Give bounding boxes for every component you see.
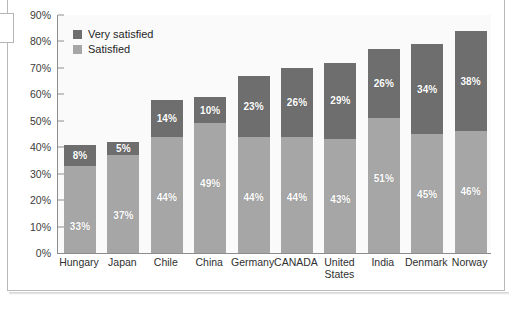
y-axis-tick-label: 20% <box>30 195 51 206</box>
legend-color-swatch <box>73 30 82 39</box>
y-axis-tick-label: 90% <box>30 10 51 21</box>
bar-segment-value-label: 26% <box>374 79 394 89</box>
bar-segment-value-label: 43% <box>330 195 350 205</box>
bar-segment-value-label: 44% <box>157 193 177 203</box>
bar-segment-value-label: 23% <box>243 102 263 112</box>
bar-column[interactable]: 38%46% <box>455 31 487 253</box>
bar-segment-very-satisfied[interactable]: 38% <box>455 31 487 131</box>
bar-segment-very-satisfied[interactable]: 34% <box>411 44 443 134</box>
bar-column[interactable]: 10%49% <box>194 97 226 253</box>
y-axis-tick-label: 70% <box>30 63 51 74</box>
y-axis-tick-mark <box>58 94 64 95</box>
y-axis-tick-label: 10% <box>30 221 51 232</box>
bar-column[interactable]: 34%45% <box>411 44 443 253</box>
legend-color-swatch <box>73 45 82 54</box>
bar-segment-value-label: 38% <box>460 77 480 87</box>
bar-segment-value-label: 10% <box>200 106 220 116</box>
bar-column[interactable]: 8%33% <box>64 145 96 253</box>
bar-column[interactable]: 26%51% <box>368 49 400 253</box>
bar-segment-satisfied[interactable]: 37% <box>107 155 139 253</box>
y-axis-tick-label: 80% <box>30 36 51 47</box>
bar-segment-value-label: 49% <box>200 179 220 189</box>
bar-segment-satisfied[interactable]: 33% <box>64 166 96 253</box>
bar-segment-very-satisfied[interactable]: 26% <box>368 49 400 118</box>
bar-column[interactable]: 29%43% <box>324 63 356 253</box>
stacked-bar-chart: 90%80%70%60%50%40%30%20%10%0% 8%33%5%37%… <box>0 0 517 317</box>
bar-segment-satisfied[interactable]: 49% <box>194 123 226 253</box>
y-axis-tick-label: 50% <box>30 116 51 127</box>
y-axis-tick-label: 30% <box>30 168 51 179</box>
y-axis-tick-mark <box>58 15 64 16</box>
bar-segment-value-label: 45% <box>417 190 437 200</box>
bar-segment-very-satisfied[interactable]: 29% <box>324 63 356 140</box>
bar-segment-satisfied[interactable]: 51% <box>368 118 400 253</box>
bar-column[interactable]: 14%44% <box>151 100 183 253</box>
bar-segment-value-label: 34% <box>417 85 437 95</box>
bar-segment-satisfied[interactable]: 44% <box>238 137 270 253</box>
bar-segment-value-label: 33% <box>70 222 90 232</box>
y-axis-tick-label: 40% <box>30 142 51 153</box>
bar-segment-satisfied[interactable]: 46% <box>455 131 487 253</box>
bar-segment-value-label: 29% <box>330 96 350 106</box>
bar-segment-value-label: 44% <box>243 193 263 203</box>
bar-segment-value-label: 8% <box>73 151 88 161</box>
legend-item[interactable]: Very satisfied <box>73 27 153 42</box>
bar-segment-value-label: 14% <box>157 114 177 124</box>
bar-segment-satisfied[interactable]: 45% <box>411 134 443 253</box>
bar-segment-value-label: 46% <box>460 187 480 197</box>
bar-column[interactable]: 26%44% <box>281 68 313 253</box>
bar-segment-value-label: 44% <box>287 193 307 203</box>
bar-segment-very-satisfied[interactable]: 5% <box>107 142 139 155</box>
legend-label: Very satisfied <box>88 29 153 40</box>
x-axis-category-label: Norway <box>430 256 510 268</box>
legend-item[interactable]: Satisfied <box>73 42 153 57</box>
bar-segment-value-label: 37% <box>113 211 133 221</box>
bar-segment-very-satisfied[interactable]: 23% <box>238 76 270 137</box>
bar-segment-satisfied[interactable]: 44% <box>281 137 313 253</box>
bar-segment-satisfied[interactable]: 43% <box>324 139 356 253</box>
legend-label: Satisfied <box>88 44 130 55</box>
bar-segment-very-satisfied[interactable]: 26% <box>281 68 313 137</box>
y-axis-tick-mark <box>58 67 64 68</box>
bar-segment-value-label: 26% <box>287 98 307 108</box>
bar-column[interactable]: 23%44% <box>238 76 270 253</box>
chart-legend: Very satisfiedSatisfied <box>73 27 153 57</box>
y-axis-tick-label: 60% <box>30 89 51 100</box>
bar-segment-value-label: 5% <box>116 144 131 154</box>
bar-segment-very-satisfied[interactable]: 8% <box>64 145 96 166</box>
bar-segment-satisfied[interactable]: 44% <box>151 137 183 253</box>
y-axis-tick-mark <box>58 120 64 121</box>
y-axis-tick-mark <box>58 41 64 42</box>
bar-segment-value-label: 51% <box>374 174 394 184</box>
bar-column[interactable]: 5%37% <box>107 142 139 253</box>
bar-segment-very-satisfied[interactable]: 14% <box>151 100 183 137</box>
bar-segment-very-satisfied[interactable]: 10% <box>194 97 226 123</box>
